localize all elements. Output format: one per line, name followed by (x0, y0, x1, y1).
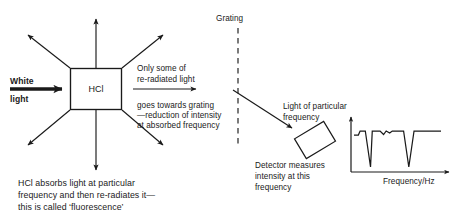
reradiation-arrow-up-left (28, 35, 70, 68)
beam-note-line2: frequency (283, 113, 319, 123)
reradiation-note-line1: Only some of (137, 64, 186, 74)
white-light-label-line2: light (10, 94, 28, 104)
grating-label: Grating (216, 14, 243, 24)
reradiation-note-line3: goes towards grating (137, 101, 214, 111)
reradiation-arrow-down-left (28, 110, 70, 145)
fluorescence-spectroscopy-diagram: White light HCl Only some of re-radiated… (0, 0, 456, 217)
detector-body (295, 121, 336, 158)
caption-line2: frequency and then re-radiates it— (18, 190, 155, 200)
chart-x-axis-label: Frequency/Hz (383, 177, 435, 187)
spectrum-trace (354, 131, 441, 167)
reradiation-note-line5: at absorbed frequency (137, 121, 220, 131)
reradiation-note-line4: —reduction of intensity (137, 111, 221, 121)
detector-note-line2: intensity at this (255, 172, 310, 182)
white-light-label-line1: White (10, 76, 34, 86)
caption-line3: this is called ‘fluorescence’ (18, 202, 124, 212)
detector-note-line1: Detector measures (255, 161, 325, 171)
reradiation-note-line2: re-radiated light (137, 75, 195, 85)
hcl-box-label: HCl (70, 84, 122, 94)
detector-note-line3: frequency (255, 183, 291, 193)
caption-line1: HCl absorbs light at particular (18, 178, 135, 188)
beam-note-line1: Light of particular (283, 102, 347, 112)
